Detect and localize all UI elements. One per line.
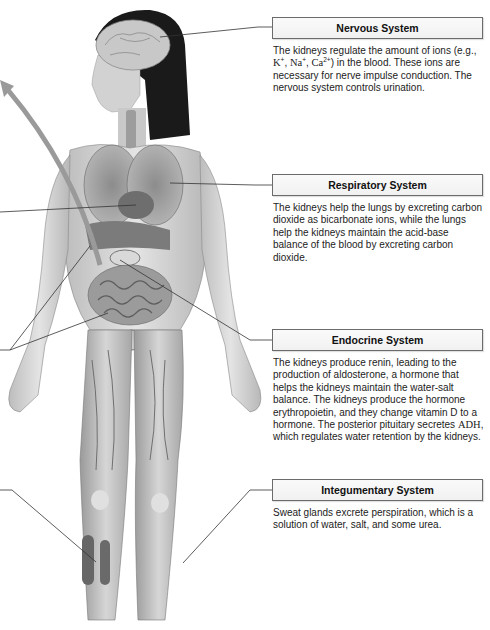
callout-title: Nervous System bbox=[272, 17, 483, 39]
callout-title: Integumentary System bbox=[272, 479, 483, 501]
callout-title: Endocrine System bbox=[272, 329, 483, 351]
left-leg bbox=[134, 330, 183, 620]
text: The kidneys produce renin, leading to th… bbox=[273, 357, 477, 430]
ion-potassium: K bbox=[273, 57, 281, 68]
callout-integumentary-system: Integumentary System Sweat glands excret… bbox=[272, 479, 484, 532]
callout-title: Respiratory System bbox=[272, 174, 483, 196]
text: The kidneys regulate the amount of ions … bbox=[273, 45, 476, 56]
callout-body: The kidneys regulate the amount of ions … bbox=[272, 45, 484, 95]
ion-calcium: Ca bbox=[312, 57, 324, 68]
callout-body: The kidneys produce renin, leading to th… bbox=[272, 357, 484, 444]
callout-respiratory-system: Respiratory System The kidneys help the … bbox=[272, 174, 484, 264]
anatomy-figure: Nervous System The kidneys regulate the … bbox=[0, 0, 490, 630]
callout-nervous-system: Nervous System The kidneys regulate the … bbox=[272, 17, 484, 95]
brain bbox=[96, 20, 170, 70]
callout-body: Sweat glands excrete perspiration, which… bbox=[272, 507, 484, 532]
callout-endocrine-system: Endocrine System The kidneys produce ren… bbox=[272, 329, 484, 444]
left-arm bbox=[200, 155, 261, 412]
kidney-pancreas bbox=[110, 250, 140, 266]
superscript: 2+ bbox=[323, 56, 330, 63]
calf-muscle bbox=[82, 535, 94, 585]
hormone-adh: ADH bbox=[458, 419, 481, 430]
callout-body: The kidneys help the lungs by excreting … bbox=[272, 202, 484, 264]
ion-sodium: Na bbox=[290, 57, 302, 68]
